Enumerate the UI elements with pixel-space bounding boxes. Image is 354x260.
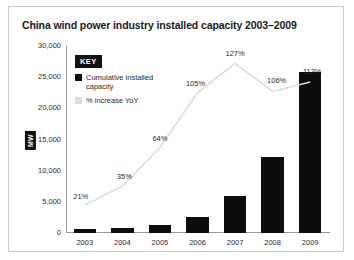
percent-data-label: 64% <box>144 134 176 143</box>
page-title: China wind power industry installed capa… <box>22 19 297 31</box>
legend-item-label: Cumulative installed capacity <box>86 73 171 91</box>
legend-item: Cumulative installed capacity <box>75 73 171 91</box>
y-axis-unit-label: MW <box>25 131 36 150</box>
y-axis-tick-label: 20,000 <box>38 103 61 112</box>
legend: KEY Cumulative installed capacity% incre… <box>75 50 171 105</box>
x-axis-tick-label: 2005 <box>141 238 179 247</box>
y-axis-tick-label: 0 <box>57 228 61 237</box>
legend-items: Cumulative installed capacity% increase … <box>75 73 171 105</box>
y-axis-tick-label: 10,000 <box>38 166 61 175</box>
percent-data-label: 127% <box>219 49 251 58</box>
legend-swatch <box>75 97 82 104</box>
y-axis-tick-label: 25,000 <box>38 72 61 81</box>
x-axis-tick-label: 2004 <box>104 238 142 247</box>
x-axis-tick-label: 2003 <box>66 238 104 247</box>
percent-data-label: 21% <box>65 192 97 201</box>
x-axis-tick-label: 2006 <box>179 238 217 247</box>
percent-data-label: 35% <box>108 172 140 181</box>
x-axis-tick-label: 2007 <box>216 238 254 247</box>
y-axis-tick-label: 15,000 <box>38 135 61 144</box>
legend-title: KEY <box>75 55 102 68</box>
percent-data-label: 105% <box>180 79 212 88</box>
x-axis-tick-label: 2009 <box>291 238 329 247</box>
x-axis-tick-label: 2008 <box>254 238 292 247</box>
legend-item-label: % increase YoY <box>86 96 139 105</box>
percent-data-label: 106% <box>261 76 293 85</box>
percent-data-label: 113% <box>296 67 328 76</box>
legend-swatch <box>75 74 82 81</box>
legend-item: % increase YoY <box>75 96 171 105</box>
chart-figure: China wind power industry installed capa… <box>8 6 344 252</box>
y-axis-tick-label: 5,000 <box>42 197 61 206</box>
y-axis-tick-label: 30,000 <box>38 41 61 50</box>
